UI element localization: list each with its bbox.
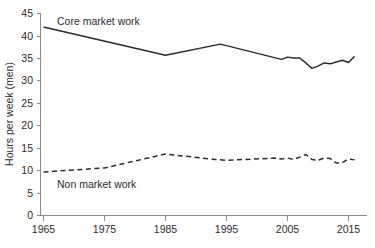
- y-tick-label: 25: [21, 97, 33, 109]
- y-tick-label: 10: [21, 164, 33, 176]
- x-tick-label: 1985: [154, 223, 178, 235]
- x-tick-label: 2015: [337, 223, 361, 235]
- series-label-non-market-work: Non market work: [57, 178, 137, 190]
- y-tick-label: 15: [21, 142, 33, 154]
- x-tick-label: 1975: [93, 223, 117, 235]
- x-tick-label: 1995: [215, 223, 239, 235]
- x-tick-label: 2005: [276, 223, 300, 235]
- x-tick-label: 1965: [32, 223, 56, 235]
- y-tick-label: 0: [27, 209, 33, 221]
- y-tick-label: 30: [21, 74, 33, 86]
- y-tick-label: 20: [21, 119, 33, 131]
- y-tick-label: 40: [21, 30, 33, 42]
- series-label-core-market-work: Core market work: [57, 15, 141, 27]
- y-tick-label: 35: [21, 52, 33, 64]
- y-axis-title: Hours per week (men): [3, 62, 15, 166]
- chart-container: 0 5 10 15 20 25 30 35 40 45 1965 1975 19…: [0, 0, 375, 248]
- line-chart: 0 5 10 15 20 25 30 35 40 45 1965 1975 19…: [0, 0, 375, 248]
- y-tick-label: 5: [27, 187, 33, 199]
- y-tick-label: 45: [21, 7, 33, 19]
- chart-background: [0, 0, 375, 248]
